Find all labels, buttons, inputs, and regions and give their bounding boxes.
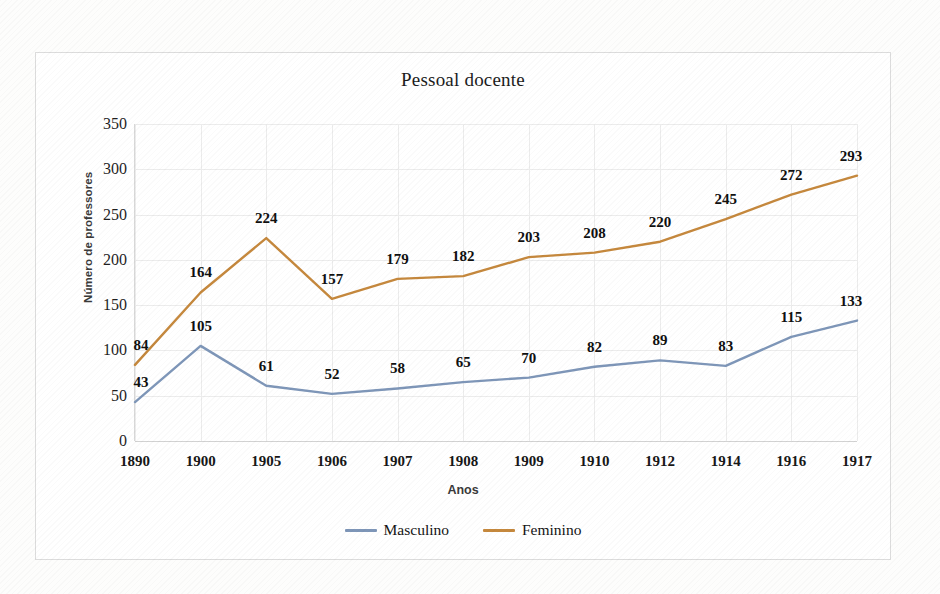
y-axis-tick-label: 300: [81, 160, 127, 178]
data-label-masculino: 52: [324, 365, 339, 382]
data-label-feminino: 182: [452, 248, 475, 265]
data-label-feminino: 220: [649, 213, 672, 230]
data-label-masculino: 83: [718, 337, 733, 354]
legend-line-swatch: [483, 529, 515, 532]
data-label-masculino: 70: [521, 349, 536, 366]
gridline-vertical: [857, 124, 858, 441]
data-label-feminino: 164: [189, 264, 212, 281]
x-axis-tick-label: 1910: [579, 453, 609, 470]
data-label-masculino: 82: [587, 338, 602, 355]
x-axis-title: Anos: [36, 483, 890, 497]
legend-line-swatch: [345, 529, 377, 532]
x-axis-tick-label: 1907: [383, 453, 413, 470]
data-label-masculino: 105: [189, 317, 212, 334]
data-label-feminino: 224: [255, 210, 278, 227]
x-axis-tick-label: 1909: [514, 453, 544, 470]
x-axis-tick-label: 1905: [251, 453, 281, 470]
chart-page: Pessoal docente Número de professores 05…: [0, 0, 940, 594]
data-label-masculino: 58: [390, 360, 405, 377]
chart-legend: MasculinoFeminino: [36, 521, 890, 539]
plot-area: [135, 124, 857, 441]
x-axis-tick-label: 1912: [645, 453, 675, 470]
data-label-masculino: 115: [781, 308, 803, 325]
series-lines: [135, 124, 857, 441]
data-label-feminino: 157: [321, 270, 344, 287]
x-axis-tick-label: 1914: [711, 453, 741, 470]
data-label-feminino: 84: [134, 336, 149, 353]
data-label-feminino: 245: [714, 191, 737, 208]
x-axis-tick-label: 1890: [120, 453, 150, 470]
x-axis-tick-label: 1917: [842, 453, 872, 470]
data-label-feminino: 293: [840, 147, 863, 164]
chart-frame: Pessoal docente Número de professores 05…: [35, 52, 891, 560]
data-label-feminino: 272: [780, 166, 803, 183]
y-axis-tick-label: 350: [81, 115, 127, 133]
data-label-masculino: 89: [653, 332, 668, 349]
x-axis-tick-label: 1908: [448, 453, 478, 470]
legend-entry-masculino[interactable]: Masculino: [345, 521, 449, 539]
y-axis-title: Número de professores: [82, 172, 94, 303]
y-axis-tick-label: 200: [81, 251, 127, 269]
x-axis-tick-label: 1916: [776, 453, 806, 470]
data-label-masculino: 61: [259, 357, 274, 374]
x-axis-tick-label: 1906: [317, 453, 347, 470]
data-label-feminino: 179: [386, 250, 409, 267]
y-axis-tick-label: 50: [81, 387, 127, 405]
y-axis-tick-label: 100: [81, 341, 127, 359]
legend-entry-feminino[interactable]: Feminino: [483, 521, 581, 539]
series-line-masculino: [135, 321, 857, 403]
data-label-feminino: 203: [518, 229, 541, 246]
y-axis-tick-label: 250: [81, 206, 127, 224]
x-axis-line: [135, 441, 857, 442]
data-label-masculino: 65: [456, 354, 471, 371]
data-label-masculino: 43: [134, 374, 149, 391]
legend-label: Masculino: [384, 521, 449, 539]
y-axis-tick-label: 150: [81, 296, 127, 314]
y-axis-tick-label: 0: [81, 432, 127, 450]
chart-title: Pessoal docente: [36, 69, 890, 91]
data-label-masculino: 133: [840, 292, 863, 309]
x-axis-tick-label: 1900: [186, 453, 216, 470]
data-label-feminino: 208: [583, 224, 606, 241]
series-line-feminino: [135, 176, 857, 365]
legend-label: Feminino: [522, 521, 581, 539]
